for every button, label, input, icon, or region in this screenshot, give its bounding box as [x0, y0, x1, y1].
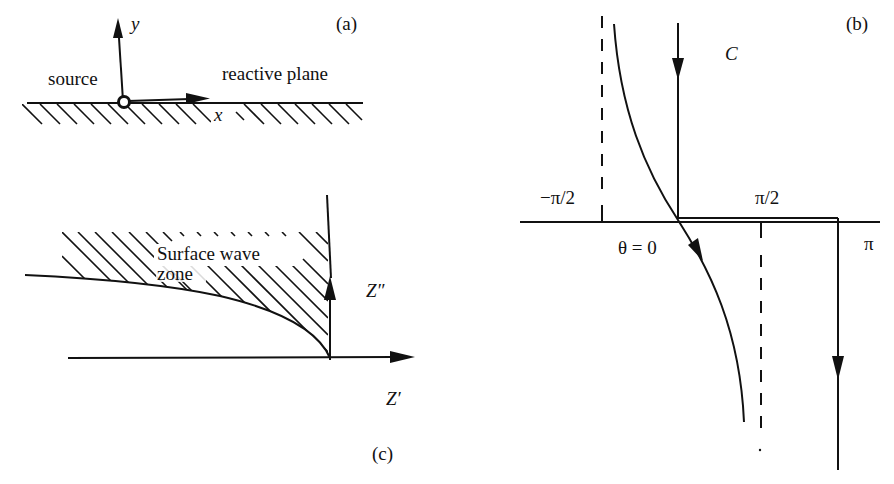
diagram-canvas: (a) y x source — [0, 0, 894, 484]
zone-label-line2: zone — [157, 263, 193, 284]
panel-b-tag: (b) — [846, 13, 868, 35]
theta-zero-label: θ = 0 — [618, 237, 657, 258]
z-imag-arrowhead-icon — [324, 276, 336, 300]
panel-a: (a) y x source — [22, 13, 363, 125]
x-axis — [128, 99, 190, 101]
y-axis-arrowhead-icon — [113, 18, 123, 38]
contour-down-arrow-lower-icon — [832, 356, 844, 380]
panel-c: Z″ Z′ Surface wave zone (c) — [25, 195, 415, 465]
reactive-plane-hatching — [22, 104, 362, 124]
neg-half-pi-label: −π/2 — [540, 187, 575, 208]
reactive-plane-label: reactive plane — [222, 63, 328, 84]
zone-label-line1: Surface wave — [157, 243, 260, 264]
contour-label: C — [725, 43, 738, 64]
source-point-icon — [119, 97, 130, 108]
surface-wave-boundary-curve — [25, 275, 330, 358]
source-label: source — [48, 68, 98, 89]
upper-vertical-line — [327, 195, 331, 278]
half-pi-label: π/2 — [755, 187, 779, 208]
panel-c-tag: (c) — [372, 443, 393, 465]
pi-label: π — [864, 233, 874, 254]
z-imag-label: Z″ — [366, 280, 386, 301]
z-real-arrowhead-icon — [390, 351, 415, 363]
z-real-axis — [68, 357, 395, 358]
y-axis-label: y — [129, 13, 140, 34]
z-real-label: Z′ — [386, 388, 402, 409]
x-axis-label: x — [213, 104, 223, 125]
panel-b: (b) −π/2 π/2 C π θ = 0 — [520, 13, 880, 470]
panel-a-tag: (a) — [336, 13, 357, 35]
contour-down-arrow-icon — [672, 58, 684, 80]
